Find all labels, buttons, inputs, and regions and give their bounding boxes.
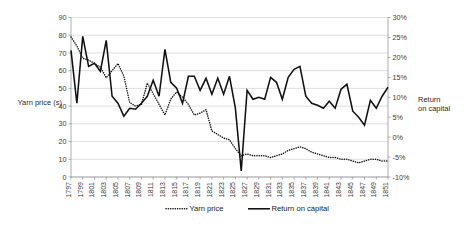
x-tick-label: 1847: [359, 182, 366, 198]
x-tick-label: 1817: [182, 182, 189, 198]
x-tick-label: 1797: [65, 182, 72, 198]
x-tick-label: 1805: [112, 182, 119, 198]
yarn-price-return-on-capital-chart: 0102030405060708090 -10%-5%0%5%10%15%20%…: [0, 0, 465, 229]
legend-label-return-on-capital: Return on capital: [272, 204, 330, 213]
right-axis-title-line1: Return: [418, 95, 441, 104]
right-tick-label: 20%: [393, 53, 408, 62]
x-tick-label: 1813: [159, 182, 166, 198]
left-tick-label: 20: [59, 137, 67, 146]
right-axis-title-line2: on capital: [418, 104, 450, 113]
left-tick-label: 90: [59, 13, 67, 22]
x-tick-label: 1851: [382, 182, 389, 198]
x-tick-label: 1831: [265, 182, 272, 198]
x-tick-label: 1837: [300, 182, 307, 198]
x-tick-label: 1799: [77, 182, 84, 198]
x-tick-label: 1845: [347, 182, 354, 198]
x-tick-label: 1843: [335, 182, 342, 198]
x-tick-label: 1801: [88, 182, 95, 198]
chart-container: 0102030405060708090 -10%-5%0%5%10%15%20%…: [0, 0, 465, 229]
left-axis-title: Yarn price (s): [18, 98, 63, 107]
left-tick-label: 70: [59, 49, 67, 58]
right-axis-ticks: -10%-5%0%5%10%15%20%25%30%: [388, 13, 410, 182]
x-tick-label: 1821: [206, 182, 213, 198]
x-tick-label: 1803: [100, 182, 107, 198]
x-tick-label: 1829: [253, 182, 260, 198]
left-tick-label: 60: [59, 66, 67, 75]
left-tick-label: 0: [63, 173, 67, 182]
right-tick-label: 0%: [393, 133, 404, 142]
x-tick-label: 1819: [194, 182, 201, 198]
right-tick-label: 25%: [393, 33, 408, 42]
legend-label-yarn-price: Yarn price: [190, 204, 224, 213]
series-line-return-on-capital: [71, 36, 388, 171]
axes-group: [71, 18, 388, 178]
x-tick-label: 1809: [135, 182, 142, 198]
right-tick-label: 15%: [393, 73, 408, 82]
x-tick-label: 1849: [370, 182, 377, 198]
right-tick-label: -10%: [393, 173, 410, 182]
x-tick-label: 1811: [147, 182, 154, 197]
right-tick-label: 5%: [393, 113, 404, 122]
left-tick-label: 10: [59, 155, 67, 164]
right-tick-label: 10%: [393, 93, 408, 102]
right-tick-label: 30%: [393, 13, 408, 22]
x-tick-label: 1815: [171, 182, 178, 198]
left-tick-label: 30: [59, 119, 67, 128]
gridlines-group: [71, 18, 388, 178]
x-tick-label: 1807: [124, 182, 131, 198]
x-tick-label: 1833: [276, 182, 283, 198]
series-line-yarn-price: [71, 37, 388, 163]
left-tick-label: 80: [59, 31, 67, 40]
x-tick-label: 1841: [323, 182, 330, 198]
x-axis-ticks: 1797179918011803180518071809181118131815…: [65, 177, 389, 198]
legend-group: Yarn priceReturn on capital: [166, 204, 329, 213]
left-tick-label: 50: [59, 84, 67, 93]
x-tick-label: 1835: [288, 182, 295, 198]
x-tick-label: 1825: [229, 182, 236, 198]
series-group: [71, 36, 388, 171]
x-tick-label: 1839: [312, 182, 319, 198]
right-tick-label: -5%: [393, 153, 406, 162]
x-tick-label: 1823: [218, 182, 225, 198]
x-tick-label: 1827: [241, 182, 248, 198]
